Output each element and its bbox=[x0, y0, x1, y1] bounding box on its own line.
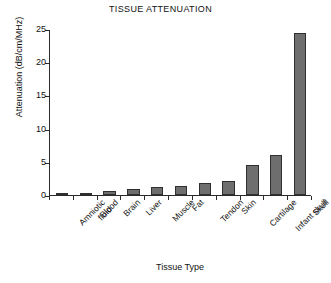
bar bbox=[199, 183, 211, 195]
bar bbox=[175, 186, 187, 195]
y-tick-label: 25 bbox=[36, 24, 46, 34]
plot-area: 0510152025 bbox=[49, 30, 311, 196]
bar bbox=[270, 155, 282, 195]
y-tick-label: 0 bbox=[41, 190, 46, 200]
bar bbox=[103, 191, 115, 195]
bar bbox=[80, 193, 92, 195]
y-tick-label: 20 bbox=[36, 57, 46, 67]
x-axis-tick-labels: Amniotic fluidBloodBrainLiverMuscleFatTe… bbox=[49, 198, 311, 254]
y-tick-label: 10 bbox=[36, 124, 46, 134]
bar bbox=[56, 193, 68, 195]
bar bbox=[246, 165, 258, 195]
bar bbox=[222, 181, 234, 195]
x-tick-label: Liver bbox=[145, 198, 165, 218]
chart-title: TISSUE ATTENUATION bbox=[0, 4, 321, 14]
y-axis-title-wrapper: Attenuation (dB/cm/MHz) bbox=[12, 2, 26, 132]
x-tick-label: Skull bbox=[311, 198, 331, 218]
bar-series bbox=[50, 30, 311, 195]
bar bbox=[294, 33, 306, 195]
bar bbox=[151, 187, 163, 195]
x-tick-mark bbox=[311, 196, 312, 200]
x-tick-label: Brain bbox=[121, 198, 142, 219]
x-axis-title: Tissue Type bbox=[49, 262, 311, 272]
x-axis-line bbox=[49, 195, 311, 196]
y-tick-label: 5 bbox=[41, 157, 46, 167]
y-axis-title: Attenuation (dB/cm/MHz) bbox=[14, 17, 24, 118]
bar bbox=[127, 189, 139, 195]
y-tick-label: 15 bbox=[36, 90, 46, 100]
